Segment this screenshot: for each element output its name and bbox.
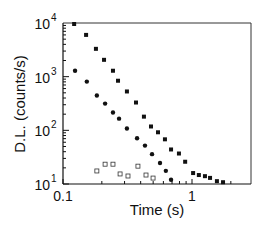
- data-point: [215, 179, 219, 183]
- data-point: [117, 116, 121, 120]
- y-ticks: 101102103104: [34, 12, 69, 193]
- data-point: [95, 93, 99, 97]
- data-point: [203, 174, 207, 178]
- data-point: [72, 22, 76, 26]
- data-point: [149, 124, 153, 128]
- data-point: [103, 101, 107, 105]
- data-point: [156, 130, 160, 134]
- data-point: [111, 69, 115, 73]
- data-point: [125, 89, 129, 93]
- y-axis-label: D.L. (counts/s): [11, 55, 28, 153]
- y-tick-exponent: 3: [51, 66, 57, 77]
- y-tick-label: 10: [34, 177, 50, 193]
- data-point: [208, 176, 212, 180]
- data-point: [94, 47, 98, 51]
- x-tick-label: 0.1: [53, 188, 73, 204]
- y-tick-label: 10: [34, 16, 50, 32]
- data-point: [125, 126, 129, 130]
- data-point: [136, 164, 140, 168]
- data-point: [102, 58, 106, 62]
- data-point: [118, 172, 122, 176]
- data-point: [73, 69, 77, 73]
- x-axis-label: Time (s): [130, 201, 184, 218]
- data-point: [144, 173, 148, 177]
- data-point: [151, 176, 155, 180]
- x-tick-label: 1: [188, 188, 196, 204]
- series-open-square: [95, 162, 155, 180]
- data-point: [169, 147, 173, 151]
- data-point: [142, 115, 146, 119]
- data-point: [150, 152, 154, 156]
- y-tick-label: 10: [34, 123, 50, 139]
- data-point: [103, 162, 107, 166]
- data-point: [163, 137, 167, 141]
- data-point: [111, 110, 115, 114]
- data-point: [191, 171, 195, 175]
- data-point: [221, 180, 225, 184]
- data-point: [95, 169, 99, 173]
- data-point: [183, 160, 187, 164]
- data-point: [197, 173, 201, 177]
- data-point: [126, 174, 130, 178]
- y-tick-exponent: 4: [51, 12, 57, 23]
- data-point: [85, 79, 89, 83]
- data-point: [135, 136, 139, 140]
- y-tick-label: 10: [34, 70, 50, 86]
- data-point: [143, 143, 147, 147]
- y-tick-exponent: 2: [51, 119, 57, 130]
- data-point: [84, 33, 88, 37]
- data-point: [116, 79, 120, 83]
- data-point: [111, 162, 115, 166]
- data-series: [72, 22, 225, 184]
- data-point: [177, 152, 181, 156]
- series-filled-circle: [73, 69, 173, 182]
- data-point: [164, 169, 168, 173]
- data-point: [158, 161, 162, 165]
- data-point: [169, 178, 173, 182]
- chart: 0.11 101102103104 Time (s) D.L. (counts/…: [0, 0, 263, 229]
- data-point: [134, 101, 138, 105]
- series-filled-square: [72, 22, 225, 184]
- y-tick-exponent: 1: [51, 173, 57, 184]
- plot-frame: [63, 23, 251, 184]
